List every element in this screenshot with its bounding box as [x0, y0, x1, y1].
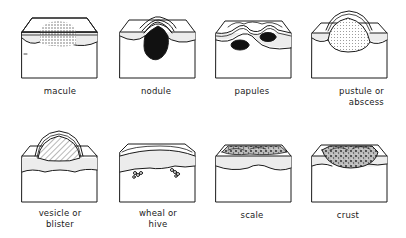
crust-diagram	[312, 145, 387, 202]
label-crust: crust	[318, 210, 378, 221]
vesicle-diagram	[22, 131, 97, 202]
pustule-diagram	[312, 11, 387, 78]
macule-diagram	[22, 18, 97, 78]
label-scale: scale	[222, 210, 282, 221]
skin-lesion-diagram	[0, 0, 406, 238]
label-macule: macule	[30, 86, 90, 97]
label-wheal: wheal or hive	[126, 208, 190, 230]
label-vesicle: vesicle or blister	[28, 208, 92, 230]
nodule-diagram	[120, 17, 195, 78]
label-papules: papules	[222, 86, 282, 97]
papules-diagram	[216, 21, 291, 78]
label-pustule: pustule or abscess	[320, 86, 384, 108]
wheal-diagram	[120, 144, 195, 202]
scale-diagram	[216, 145, 291, 202]
label-nodule: nodule	[126, 86, 186, 97]
